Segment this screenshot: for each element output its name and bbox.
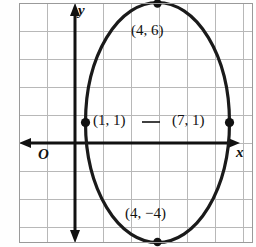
figure-container: (4, 6) (1, 1) (7, 1) (4, −4) O x y bbox=[0, 0, 256, 247]
point-label-right-covertex: (7, 1) bbox=[172, 112, 205, 129]
point-label-left-covertex: (1, 1) bbox=[93, 112, 126, 129]
origin-label: O bbox=[38, 146, 49, 163]
point-left-covertex bbox=[81, 118, 90, 127]
y-axis-label: y bbox=[78, 2, 85, 19]
point-label-bottom-vertex: (4, −4) bbox=[125, 205, 166, 222]
x-axis-label: x bbox=[236, 144, 244, 161]
point-label-top-vertex: (4, 6) bbox=[131, 22, 164, 39]
point-right-covertex bbox=[225, 118, 234, 127]
